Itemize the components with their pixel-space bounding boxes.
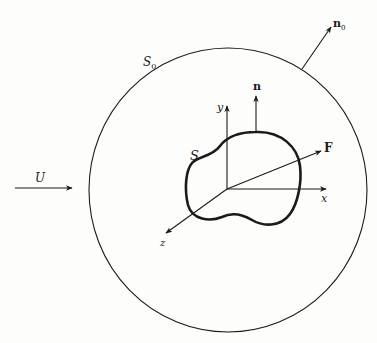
outer-control-surface <box>89 48 367 332</box>
force-vector <box>227 151 321 189</box>
label-body-normal: n <box>253 80 261 93</box>
label-outer-surface: S0 <box>143 55 156 71</box>
label-z-axis: z <box>159 237 166 248</box>
label-y-axis: y <box>216 101 224 114</box>
label-force: F <box>324 141 333 155</box>
body-surface <box>186 132 301 225</box>
label-body-surface: S <box>190 148 199 163</box>
label-x-axis: x <box>321 192 328 205</box>
label-outer-normal: n0 <box>333 17 345 32</box>
fluid-body-diagram: S0 S n n0 F U x y z <box>0 0 377 343</box>
z-axis <box>166 189 227 233</box>
label-free-stream: U <box>35 171 46 185</box>
outer-normal-vector <box>302 27 331 69</box>
